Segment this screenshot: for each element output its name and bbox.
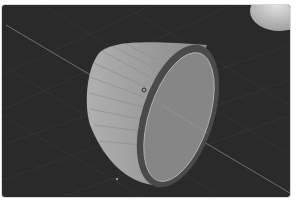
3d-cursor-icon <box>116 178 118 180</box>
sphere-object[interactable] <box>250 5 290 31</box>
3d-viewport[interactable] <box>2 5 290 197</box>
viewport-canvas[interactable] <box>2 5 290 197</box>
